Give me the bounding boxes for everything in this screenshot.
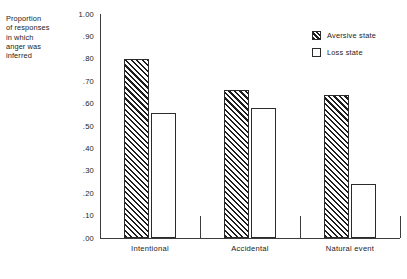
y-axis-title-line-2: of responses: [6, 23, 72, 32]
x-axis-separator-1: [200, 216, 201, 238]
y-axis-tick-1p00: 1.00: [64, 10, 94, 19]
legend-item-loss-state: Loss state: [312, 48, 376, 57]
hatched-square-icon: [312, 31, 321, 40]
x-axis-end-tick-1: [100, 216, 101, 238]
legend-item-aversive-state: Aversive state: [312, 31, 376, 40]
x-axis-separator-2: [300, 216, 301, 238]
bar-chart-figure: Proportion of responses in which anger w…: [0, 0, 407, 279]
y-axis-tick-p90: .90: [64, 32, 94, 41]
bar-intentional-aversive-state: [124, 59, 149, 238]
x-axis-line: [100, 238, 400, 239]
y-axis-title-line-3: in which: [6, 33, 72, 42]
y-axis-title-line-4: anger was: [6, 42, 72, 51]
open-square-icon: [312, 48, 321, 57]
legend-label-loss-state: Loss state: [327, 48, 363, 57]
x-axis-label-accidental: Accidental: [200, 244, 300, 253]
chart-legend: Aversive state Loss state: [312, 31, 376, 65]
y-axis-tick-p30: .30: [64, 166, 94, 175]
x-axis-label-natural-event: Natural event: [300, 244, 400, 253]
bar-natural-event-aversive-state: [324, 95, 349, 238]
y-axis-tick-p60: .60: [64, 99, 94, 108]
bar-natural-event-loss-state: [351, 184, 376, 238]
legend-label-aversive-state: Aversive state: [327, 31, 376, 40]
y-axis-tick-p70: .70: [64, 77, 94, 86]
y-axis-tick-p00: .00: [64, 234, 94, 243]
y-axis-title-line-5: inferred: [6, 51, 72, 60]
y-axis-title: Proportion of responses in which anger w…: [6, 14, 72, 60]
y-axis-tick-p80: .80: [64, 54, 94, 63]
y-axis-tick-p50: .50: [64, 122, 94, 131]
y-axis-tick-p20: .20: [64, 189, 94, 198]
x-axis-label-intentional: Intentional: [100, 244, 200, 253]
bar-accidental-loss-state: [251, 108, 276, 238]
y-axis-tick-p10: .10: [64, 211, 94, 220]
x-axis-end-tick-2: [400, 216, 401, 238]
y-axis-title-line-1: Proportion: [6, 14, 72, 23]
bar-intentional-loss-state: [151, 113, 176, 238]
bar-accidental-aversive-state: [224, 90, 249, 238]
y-axis-tick-p40: .40: [64, 144, 94, 153]
